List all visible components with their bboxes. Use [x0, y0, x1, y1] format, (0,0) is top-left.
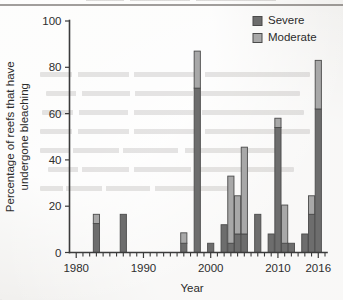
bar-segment-severe: [268, 234, 274, 253]
bar-segment-severe: [234, 234, 240, 253]
bar-segment-moderate: [275, 118, 281, 127]
bar-segment-moderate: [234, 196, 240, 234]
bar-segment-severe: [282, 243, 288, 252]
x-axis-title: Year: [180, 282, 203, 294]
y-tick-label: 100: [42, 15, 61, 27]
bar-segment-severe: [255, 214, 261, 252]
bar-segment-severe: [302, 234, 308, 253]
bar-segment-severe: [228, 243, 234, 252]
legend-swatch-severe[interactable]: [253, 17, 262, 26]
bar-segment-moderate: [315, 60, 321, 109]
bar-segment-severe: [315, 109, 321, 253]
x-axis-ticks: 19801990200020102016: [63, 253, 331, 274]
x-tick-label: 2000: [198, 262, 224, 274]
bar-segment-severe: [181, 243, 187, 252]
chart-canvas: Percentage of reefs that haveundergone b…: [0, 0, 343, 300]
bar-segment-moderate: [308, 196, 314, 215]
y-axis-ticks: 020406080100: [42, 15, 69, 259]
y-axis-title-line: Percentage of reefs that have: [4, 61, 16, 212]
bar-segment-moderate: [282, 205, 288, 243]
bar-segment-moderate: [241, 147, 247, 234]
legend-label-moderate[interactable]: Moderate: [268, 31, 317, 43]
bar-segment-severe: [221, 225, 227, 253]
x-tick-label: 2010: [265, 262, 291, 274]
y-axis-title-line: undergone bleaching: [18, 83, 30, 190]
bar-segment-severe: [120, 214, 126, 252]
bar-segment-moderate: [194, 51, 200, 88]
y-tick-label: 60: [49, 108, 62, 120]
y-tick-label: 20: [49, 200, 62, 212]
legend-label-severe[interactable]: Severe: [268, 14, 304, 26]
x-tick-label: 2016: [305, 262, 331, 274]
bar-segment-moderate: [93, 214, 99, 223]
bar-segment-severe: [275, 127, 281, 252]
y-tick-label: 0: [55, 247, 61, 259]
bar-segment-severe: [194, 88, 200, 252]
bar-segment-severe: [208, 243, 214, 252]
y-tick-label: 80: [49, 61, 62, 73]
x-tick-label: 1980: [63, 262, 89, 274]
bar-segment-moderate: [228, 176, 234, 243]
bar-segment-moderate: [181, 233, 187, 243]
bar-segment-severe: [308, 214, 314, 252]
x-tick-label: 1990: [131, 262, 157, 274]
bleaching-bar-chart: Percentage of reefs that haveundergone b…: [0, 0, 343, 300]
y-tick-label: 40: [49, 154, 62, 166]
y-axis-title: Percentage of reefs that haveundergone b…: [4, 61, 30, 212]
bar-segment-severe: [93, 224, 99, 253]
bar-segment-severe: [288, 243, 294, 252]
bar-segment-severe: [241, 234, 247, 253]
bar-series-group: [93, 51, 321, 252]
chart-legend[interactable]: SevereModerate: [253, 14, 317, 43]
legend-swatch-moderate[interactable]: [253, 34, 262, 43]
